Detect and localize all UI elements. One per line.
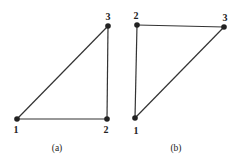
edge-3-1 bbox=[17, 26, 108, 119]
node-label: 1 bbox=[134, 125, 139, 136]
node-label: 3 bbox=[223, 12, 228, 23]
node-label: 2 bbox=[104, 124, 109, 135]
node-label: 2 bbox=[134, 10, 139, 21]
node-label: 3 bbox=[106, 11, 111, 22]
triangle-diagram-b: 123(b) bbox=[132, 10, 227, 154]
edge-3-1 bbox=[135, 27, 224, 118]
node-label: 1 bbox=[14, 124, 19, 135]
triangle-element-diagrams: 123(a) 123(b) bbox=[0, 0, 236, 158]
diagram-caption: (b) bbox=[170, 143, 181, 154]
edge-2-3 bbox=[137, 25, 224, 27]
edge-1-2 bbox=[135, 25, 137, 118]
node-2 bbox=[104, 116, 110, 122]
node-1 bbox=[14, 116, 20, 122]
node-3 bbox=[105, 23, 111, 29]
edge-2-3 bbox=[107, 26, 108, 119]
triangle-diagram-a: 123(a) bbox=[14, 11, 111, 154]
node-2 bbox=[134, 22, 140, 28]
node-3 bbox=[221, 24, 227, 30]
diagram-caption: (a) bbox=[52, 143, 63, 154]
node-1 bbox=[132, 115, 138, 121]
